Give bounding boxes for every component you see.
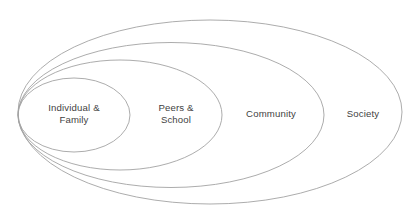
ring-label-individual-family: Individual & Family bbox=[48, 102, 99, 127]
ring-label-peers-school: Peers & School bbox=[158, 102, 193, 127]
ring-label-community: Community bbox=[246, 108, 296, 120]
socio-ecological-model-diagram: Individual & Family Peers & School Commu… bbox=[0, 0, 419, 220]
ring-label-society: Society bbox=[347, 108, 380, 120]
